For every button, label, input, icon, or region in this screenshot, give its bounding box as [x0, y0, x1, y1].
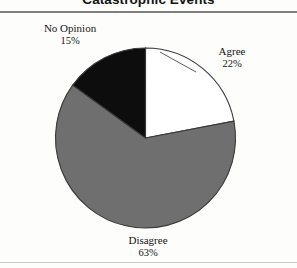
pie-label-disagree-name: Disagree [128, 234, 167, 246]
pie-label-no-opinion-name: No Opinion [44, 22, 96, 34]
figure-container: Catastrophic Events No Opinion 15% Agree… [0, 0, 297, 268]
pie-slices [56, 48, 236, 228]
pie-label-agree-percent: 22% [196, 58, 268, 71]
bottom-divider [0, 262, 297, 263]
pie-label-no-opinion: No Opinion 15% [22, 22, 118, 47]
pie-label-disagree-percent: 63% [96, 247, 200, 260]
pie-label-no-opinion-percent: 15% [22, 35, 118, 48]
pie-label-disagree: Disagree 63% [96, 234, 200, 259]
pie-label-agree: Agree 22% [196, 45, 268, 70]
pie-label-agree-name: Agree [219, 45, 246, 57]
